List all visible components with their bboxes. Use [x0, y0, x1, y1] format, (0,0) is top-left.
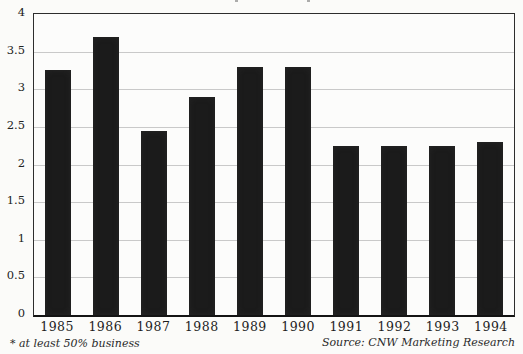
bar-slot-1994 — [466, 14, 514, 315]
bar-chart: 00.511.522.533.54 1985198619871988198919… — [0, 0, 523, 354]
bar-slot-1986 — [82, 14, 130, 315]
y-axis: 00.511.522.533.54 — [0, 13, 28, 314]
bar-1991 — [333, 146, 360, 315]
cropped-title-fragment — [307, 0, 310, 2]
y-tick-label-1: 1 — [18, 233, 25, 245]
x-tick-label-1987: 1987 — [129, 319, 177, 334]
bar-slot-1993 — [418, 14, 466, 315]
bar-slot-1987 — [130, 14, 178, 315]
bar-slot-1989 — [226, 14, 274, 315]
plot-area — [33, 13, 515, 317]
x-tick-label-1989: 1989 — [226, 319, 274, 334]
bar-1994 — [477, 142, 504, 315]
bar-1989 — [237, 67, 264, 315]
x-tick-label-1986: 1986 — [81, 319, 129, 334]
source-credit: Source: CNW Marketing Research — [322, 336, 515, 349]
x-axis: 1985198619871988198919901991199219931994 — [33, 319, 515, 334]
x-tick-label-1991: 1991 — [322, 319, 370, 334]
cropped-title-fragment — [235, 0, 238, 2]
y-tick-label-0: 0 — [18, 308, 25, 320]
x-tick-label-1990: 1990 — [274, 319, 322, 334]
x-tick-label-1994: 1994 — [467, 319, 515, 334]
y-tick-label-3.5: 3.5 — [7, 45, 25, 57]
footnote: * at least 50% business — [10, 337, 140, 350]
bar-slot-1988 — [178, 14, 226, 315]
bar-1992 — [381, 146, 408, 315]
y-tick-label-3: 3 — [18, 83, 25, 95]
x-tick-label-1992: 1992 — [370, 319, 418, 334]
bar-slot-1985 — [34, 14, 82, 315]
bar-slot-1992 — [370, 14, 418, 315]
bar-1988 — [189, 97, 216, 315]
y-tick-label-1.5: 1.5 — [7, 195, 25, 207]
bar-slot-1990 — [274, 14, 322, 315]
x-tick-label-1988: 1988 — [178, 319, 226, 334]
y-tick-label-0.5: 0.5 — [7, 271, 25, 283]
x-tick-label-1985: 1985 — [33, 319, 81, 334]
bar-slot-1991 — [322, 14, 370, 315]
bar-1986 — [93, 37, 120, 315]
bar-1993 — [429, 146, 456, 315]
y-tick-label-2.5: 2.5 — [7, 120, 25, 132]
y-tick-label-2: 2 — [18, 158, 25, 170]
bar-1985 — [45, 70, 72, 315]
bars-row — [34, 14, 514, 315]
bar-1990 — [285, 67, 312, 315]
y-tick-label-4: 4 — [18, 7, 25, 19]
bar-1987 — [141, 131, 168, 315]
x-tick-label-1993: 1993 — [419, 319, 467, 334]
